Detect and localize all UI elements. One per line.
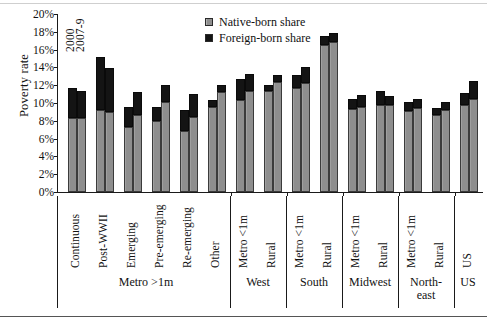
bar-segment-native: [68, 118, 77, 192]
bar-segment-foreign: [264, 85, 273, 91]
bar-segment-native: [133, 115, 142, 192]
bar-segment-native: [385, 105, 394, 192]
x-group-label-text: West: [230, 276, 286, 289]
group-separator: [398, 196, 399, 308]
bar-2007-9: [189, 94, 198, 192]
bar-segment-foreign: [460, 93, 469, 105]
bar-2007-9: [329, 33, 338, 192]
x-tick-label: Rural: [265, 242, 277, 268]
y-tick-mark: [54, 156, 58, 157]
bar-2007-9: [413, 99, 422, 192]
bar-2007-9: [245, 74, 254, 192]
y-tick-mark: [54, 32, 58, 33]
bar-segment-foreign: [357, 95, 366, 107]
x-tick-label: US: [461, 253, 473, 268]
bar-2007-9: [217, 85, 226, 192]
bar-segment-native: [320, 45, 329, 192]
x-group-label: North-east: [398, 268, 454, 310]
bar-segment-foreign: [413, 99, 422, 109]
y-tick-mark: [54, 85, 58, 86]
y-tick-mark: [54, 50, 58, 51]
x-group-label: Metro >1m: [62, 268, 230, 310]
y-tick-label: 8%: [18, 116, 54, 127]
bar-2000: [68, 88, 77, 192]
x-tick-label: Emerging: [125, 222, 137, 268]
bar-2000: [460, 93, 469, 192]
bar-segment-native: [301, 83, 310, 192]
bar-segment-native: [77, 118, 86, 192]
bar-2007-9: [301, 67, 310, 192]
bar-segment-native: [348, 109, 357, 192]
y-tick-mark: [54, 103, 58, 104]
bar-segment-native: [376, 105, 385, 192]
x-group-label: West: [230, 268, 286, 310]
x-tick-label: Metro <1m: [293, 215, 305, 268]
bar-segment-foreign: [189, 94, 198, 117]
y-tick-mark: [54, 14, 58, 15]
bar-2000: [124, 107, 133, 192]
bar-segment-native: [236, 100, 245, 192]
group-separator-left: [57, 196, 58, 308]
bar-2007-9: [133, 92, 142, 192]
bar-segment-native: [105, 112, 114, 192]
legend-label-foreign-born: Foreign-born share: [219, 30, 311, 46]
x-tick-label: Rural: [377, 242, 389, 268]
y-tick-label: 16%: [18, 45, 54, 56]
bar-2000: [376, 91, 385, 192]
x-tick-label: Re-emerging: [181, 207, 193, 268]
bar-2000: [236, 79, 245, 192]
x-group-label: Midwest: [342, 268, 398, 310]
y-tick-mark: [54, 139, 58, 140]
x-tick-label: Metro <1m: [237, 215, 249, 268]
bar-segment-native: [180, 131, 189, 192]
bar-2007-9: [161, 85, 170, 192]
bar-segment-foreign: [273, 75, 282, 82]
x-axis-category-labels: ContinuousPost-WWIIEmergingPre-emergingR…: [57, 196, 482, 270]
bar-segment-foreign: [77, 91, 86, 119]
bar-segment-foreign: [68, 88, 77, 118]
bar-segment-foreign: [161, 85, 170, 102]
group-separator: [230, 196, 231, 308]
bar-segment-foreign: [432, 108, 441, 114]
bar-segment-native: [329, 42, 338, 192]
x-tick-label: Rural: [433, 242, 445, 268]
bar-2007-9: [357, 95, 366, 192]
top-rule: [0, 3, 487, 4]
bar-2000: [348, 99, 357, 192]
bar-2007-9: [77, 91, 86, 192]
x-group-label-text: Metro >1m: [62, 276, 230, 289]
bar-segment-native: [189, 117, 198, 192]
y-tick-label: 14%: [18, 62, 54, 73]
bar-segment-foreign: [385, 96, 394, 105]
bar-segment-native: [161, 102, 170, 192]
bar-segment-foreign: [133, 92, 142, 115]
bar-segment-foreign: [292, 75, 301, 87]
bar-segment-foreign: [441, 102, 450, 110]
bar-segment-native: [460, 105, 469, 192]
bar-segment-native: [357, 107, 366, 192]
bar-2007-9: [441, 102, 450, 192]
bar-segment-foreign: [320, 36, 329, 45]
legend-item-native-born: Native-born share: [205, 14, 311, 30]
x-tick-label: Other: [209, 241, 221, 268]
y-tick-label: 4%: [18, 151, 54, 162]
bar-segment-native: [124, 127, 133, 192]
bar-segment-foreign: [236, 79, 245, 100]
bar-segment-foreign: [348, 99, 357, 110]
bar-segment-foreign: [245, 74, 254, 91]
bar-2000: [432, 108, 441, 192]
bar-segment-native: [432, 115, 441, 192]
bar-segment-native: [208, 107, 217, 192]
y-tick-mark: [54, 121, 58, 122]
x-tick-label: Continuous: [69, 214, 81, 268]
y-tick-label: 18%: [18, 27, 54, 38]
x-group-label: South: [286, 268, 342, 310]
group-separator: [286, 196, 287, 308]
x-group-label-text: South: [286, 276, 342, 289]
y-tick-label: 0%: [18, 187, 54, 198]
bar-segment-native: [273, 82, 282, 192]
series-annotation: 2007-9: [74, 18, 86, 52]
y-tick-label: 10%: [18, 98, 54, 109]
bar-segment-native: [152, 121, 161, 192]
bar-segment-native: [264, 91, 273, 192]
